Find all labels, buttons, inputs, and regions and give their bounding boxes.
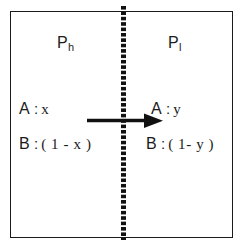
species-value-right-b: ( 1- y )	[168, 136, 214, 152]
species-value-left-b: ( 1 - x )	[41, 136, 91, 152]
compartment-label-left: Ph	[57, 35, 74, 53]
compartment-label-left-base: P	[57, 34, 68, 51]
species-separator-right-b: :	[157, 135, 168, 152]
species-value-left-a: x	[41, 101, 49, 117]
compartment-label-right-base: P	[168, 34, 179, 51]
dotted-membrane-divider	[121, 6, 126, 240]
species-separator-left-a: :	[30, 100, 41, 117]
species-row-right-a: A:y	[151, 101, 181, 117]
species-row-left-a: A:x	[19, 101, 49, 117]
species-name-left-a: A	[19, 100, 30, 117]
species-row-left-b: B:( 1 - x )	[19, 136, 92, 152]
species-separator-left-b: :	[30, 135, 41, 152]
compartment-label-left-subscript: h	[68, 41, 74, 53]
species-separator-right-a: :	[162, 100, 173, 117]
species-name-left-b: B	[19, 135, 30, 152]
species-name-right-b: B	[146, 135, 157, 152]
compartment-label-right-subscript: l	[179, 41, 181, 53]
species-row-right-b: B:( 1- y )	[146, 136, 214, 152]
species-name-right-a: A	[151, 100, 162, 117]
figure-canvas: Ph Pl A:x B:( 1 - x ) A:y B:( 1- y )	[0, 0, 243, 251]
compartment-label-right: Pl	[168, 35, 182, 53]
species-value-right-a: y	[173, 101, 181, 117]
